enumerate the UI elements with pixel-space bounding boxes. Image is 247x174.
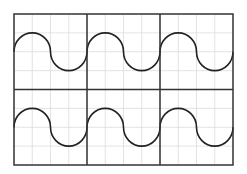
diagram-canvas xyxy=(0,0,247,174)
tile-grid-diagram xyxy=(0,0,247,174)
